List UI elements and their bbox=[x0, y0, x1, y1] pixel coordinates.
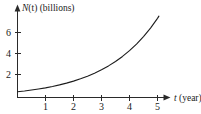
x-tick-label-4: 4 bbox=[127, 101, 132, 112]
y-axis-arrowhead bbox=[15, 5, 21, 12]
x-tick-label-3: 3 bbox=[99, 101, 104, 112]
y-axis-title-unit: (billions) bbox=[40, 3, 75, 14]
y-axis-title: N(t) (billions) bbox=[21, 3, 75, 14]
x-tick-label-2: 2 bbox=[71, 101, 76, 112]
y-tick-label-2: 2 bbox=[6, 69, 11, 80]
y-axis-title-arg: (t) bbox=[28, 3, 37, 14]
chart-canvas: 6 4 2 1 2 3 4 5 N(t) (billions) t (year) bbox=[0, 0, 201, 114]
x-axis-title: t (year) bbox=[174, 93, 201, 104]
x-axis-title-unit: (year) bbox=[179, 93, 201, 104]
x-tick-label-5: 5 bbox=[155, 101, 160, 112]
exponential-curve bbox=[18, 16, 159, 92]
x-axis-arrowhead bbox=[164, 95, 171, 101]
x-tick-label-1: 1 bbox=[43, 101, 48, 112]
y-tick-label-6: 6 bbox=[6, 27, 11, 38]
exponential-growth-chart: 6 4 2 1 2 3 4 5 N(t) (billions) t (year) bbox=[0, 0, 201, 114]
y-tick-label-4: 4 bbox=[6, 48, 11, 59]
